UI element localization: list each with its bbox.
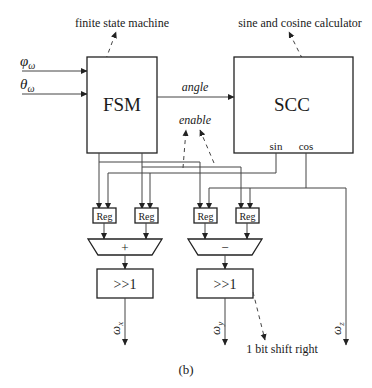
- shift-annotation-pointer: [253, 292, 265, 340]
- scc-annotation: sine and cosine calculator: [238, 16, 362, 30]
- scc-port-cos: cos: [299, 140, 314, 152]
- adder-op: +: [121, 240, 128, 255]
- diagram-canvas: finite state machine sine and cosine cal…: [0, 0, 372, 388]
- output-z-label: ωz: [329, 322, 346, 335]
- fsm-enable-wires: [99, 153, 241, 209]
- scc-port-sin: sin: [270, 140, 283, 152]
- shift-block-x: >>1: [97, 269, 153, 298]
- angle-label: angle: [182, 80, 209, 94]
- output-y-label: ωy: [208, 322, 225, 335]
- output-x-label: ωx: [108, 322, 125, 335]
- enable-label: enable: [179, 113, 212, 127]
- fsm-annotation: finite state machine: [75, 16, 169, 30]
- svg-text:θω: θω: [20, 76, 34, 94]
- input-phi: φω: [20, 53, 87, 71]
- shift-annotation: 1 bit shift right: [246, 342, 318, 356]
- fsm-label: FSM: [103, 94, 141, 115]
- scc-block: SCC sin cos: [234, 57, 353, 153]
- shift-block-y: >>1: [197, 269, 253, 298]
- subtractor-op: −: [221, 240, 228, 255]
- scc-label: SCC: [274, 94, 310, 115]
- svg-text:Reg: Reg: [138, 211, 154, 222]
- register-1: Reg: [93, 208, 116, 223]
- enable-pointer-right: [200, 130, 214, 163]
- svg-text:Reg: Reg: [96, 211, 112, 222]
- svg-text:φω: φω: [20, 53, 35, 71]
- figure-caption: (b): [178, 362, 193, 377]
- register-2: Reg: [135, 208, 158, 223]
- fsm-block: FSM: [87, 57, 157, 153]
- adder: +: [88, 239, 162, 255]
- input-theta: θω: [20, 76, 87, 94]
- svg-text:Reg: Reg: [197, 211, 213, 222]
- subtractor: −: [188, 239, 262, 255]
- svg-text:Reg: Reg: [239, 211, 255, 222]
- register-3: Reg: [194, 208, 217, 223]
- sin-wires: [108, 153, 276, 209]
- register-4: Reg: [236, 208, 259, 223]
- svg-text:>>1: >>1: [214, 277, 237, 292]
- svg-text:>>1: >>1: [114, 277, 137, 292]
